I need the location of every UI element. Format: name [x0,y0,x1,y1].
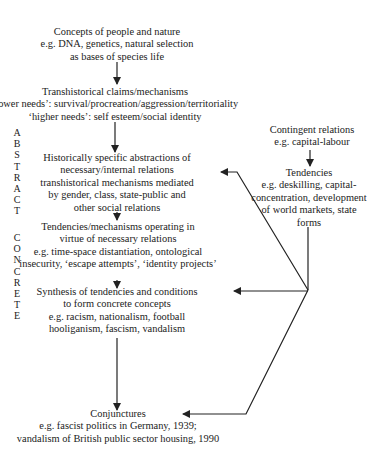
node-title: Conjunctures [17,408,219,420]
node-historically-specific: Historically specific abstractions of ne… [40,152,194,214]
node-title: Concepts of people and nature [41,26,194,38]
node-title: Synthesis of tendencies and conditions [36,286,197,298]
axis-label-concrete: C O N C R E T E [10,232,24,322]
node-concepts: Concepts of people and nature e.g. DNA, … [41,26,194,63]
node-synthesis: Synthesis of tendencies and conditions t… [36,286,197,336]
axis-label-abstract: A B S T R A C T [10,127,24,217]
node-tendencies-mechanisms: Tendencies/mechanisms operating in virtu… [19,221,216,271]
node-conjunctures: Conjunctures e.g. fascist politics in Ge… [17,408,219,445]
node-title: Tendencies/mechanisms operating in [19,221,216,233]
node-title: Tendencies [251,167,366,179]
node-tendencies-right: Tendencies e.g. deskilling, capital- con… [251,167,366,229]
node-title: Transhistorical claims/mechanisms [0,86,238,98]
node-transhistorical: Transhistorical claims/mechanisms ‘lower… [0,86,238,123]
node-title: Contingent relations [270,124,355,136]
node-contingent: Contingent relations e.g. capital-labour [270,124,355,149]
arrow-to-conjunctures [183,290,308,414]
node-title: Historically specific abstractions of [40,152,194,164]
